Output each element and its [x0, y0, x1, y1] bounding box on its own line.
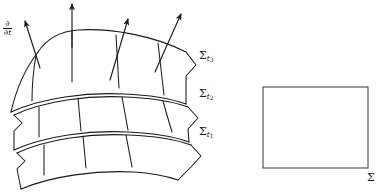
time-vector-numerator: ∂ [3, 20, 12, 28]
sigma-t3-right-fold [186, 52, 196, 104]
sigma-t3-sub-index: 3 [210, 56, 214, 63]
time-vector-label: ∂ ∂t [3, 20, 12, 37]
sigma-t3-grid-3 [116, 35, 119, 88]
sigma-t1-grid-3 [126, 135, 132, 167]
sigma-t3-grid-4 [158, 43, 164, 95]
sigma-t2-grid-2 [78, 98, 81, 131]
foliation-diagram [0, 0, 384, 195]
time-vector-denominator: ∂t [3, 28, 12, 37]
sigma-t3-base: Σ [199, 49, 207, 62]
time-arrow-3 [110, 19, 128, 80]
sigma-t3-near-edge [11, 52, 38, 112]
surface-sigma-t2 [14, 97, 198, 150]
sigma-t3-grid-1 [32, 55, 36, 101]
sigma-t2-base: Σ [199, 87, 207, 100]
sigma-t1-left-fold [17, 153, 25, 189]
label-sigma-t3: Σt3 [199, 50, 214, 63]
sigma-t1-right-fold [178, 145, 201, 180]
sigma-t2-grid-3 [122, 97, 128, 130]
label-sigma-plain: Σ [367, 172, 375, 183]
sigma-t2-grid-4 [163, 101, 172, 132]
sigma-t1-sub-index: 1 [210, 132, 214, 139]
sigma-t1-far-edge [17, 135, 191, 153]
label-sigma-t2: Σt2 [199, 88, 214, 101]
flat-sigma-rectangle [263, 87, 368, 168]
sigma-t2-left-fold [14, 115, 22, 150]
time-flow-arrows [25, 4, 181, 80]
sigma-t2-sub-index: 2 [210, 94, 214, 101]
sigma-t1-base: Σ [199, 125, 207, 138]
sigma-t1-grid-2 [83, 136, 86, 168]
sigma-t2-far-edge [14, 97, 188, 115]
time-arrow-1 [25, 21, 40, 68]
sigma-t1-near-edge [21, 172, 178, 189]
label-sigma-t1: Σt1 [199, 126, 214, 139]
surface-sigma-t1 [17, 135, 201, 189]
time-arrow-4 [155, 14, 181, 72]
sigma-t3-far-edge [38, 30, 186, 52]
sigma-t2-right-fold [188, 107, 198, 142]
